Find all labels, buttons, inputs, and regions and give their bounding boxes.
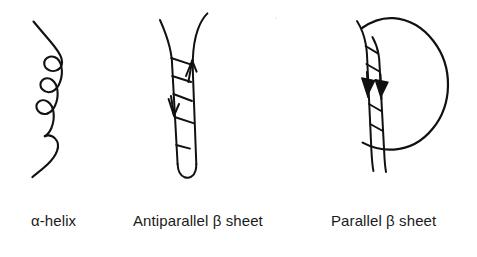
antiparallel-left-strand — [160, 20, 178, 164]
antiparallel-right-strand-tail — [193, 13, 208, 60]
antiparallel-hairpin-turn — [178, 164, 197, 178]
parallel-left-strand — [357, 21, 373, 171]
caption-parallel-beta-sheet: Parallel β sheet — [331, 213, 436, 228]
parallel-right-strand — [372, 37, 386, 172]
alpha-helix-coil-2 — [40, 78, 57, 113]
antiparallel-rung-3 — [173, 94, 192, 101]
alpha-helix-coil-3 — [36, 100, 53, 136]
antiparallel-right-strand — [193, 60, 197, 164]
alpha-helix-drawing — [32, 22, 62, 178]
parallel-crossover-loop — [362, 18, 448, 150]
antiparallel-beta-sheet-drawing — [160, 13, 207, 177]
parallel-rung-3 — [369, 104, 382, 111]
antiparallel-rung-5 — [176, 145, 190, 149]
scan-speck — [275, 17, 277, 19]
parallel-arrow-stem-right — [380, 74, 381, 99]
caption-antiparallel-beta-sheet: Antiparallel β sheet — [133, 213, 263, 228]
antiparallel-rung-4 — [175, 117, 194, 123]
parallel-rung-4 — [370, 124, 383, 131]
alpha-helix-lower-tail — [32, 136, 58, 178]
antiparallel-rung-1 — [171, 58, 190, 64]
caption-alpha-helix: α-helix — [31, 213, 76, 228]
parallel-arrow-stem-left — [367, 72, 368, 97]
figure-canvas: α-helix Antiparallel β sheet Parallel β … — [0, 0, 477, 257]
alpha-helix-upper-tail — [34, 22, 63, 70]
parallel-beta-sheet-drawing — [357, 18, 448, 172]
alpha-helix-coil-1 — [44, 56, 62, 91]
